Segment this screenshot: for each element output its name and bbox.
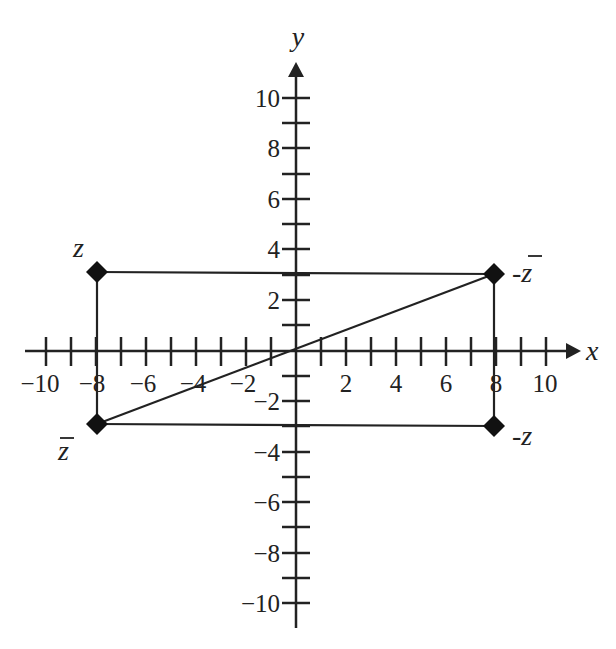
y-tick-label: 8 bbox=[268, 135, 281, 162]
point-zbar-text: z bbox=[57, 435, 69, 466]
x-axis-label: x bbox=[585, 335, 599, 366]
y-tick-label: −6 bbox=[253, 489, 280, 516]
point-z-label: z bbox=[72, 232, 84, 263]
y-tick-label: 2 bbox=[268, 287, 281, 314]
y-axis-arrow-icon bbox=[288, 62, 304, 77]
x-tick-label: −6 bbox=[130, 370, 157, 397]
x-tick-label: −2 bbox=[230, 370, 257, 397]
point-neg-zbar-label: -z bbox=[512, 256, 542, 288]
point-z-marker-icon bbox=[86, 261, 108, 283]
x-tick-label: 6 bbox=[440, 370, 453, 397]
y-tick-label: 4 bbox=[268, 236, 281, 263]
point-neg-z-marker-icon bbox=[483, 415, 505, 437]
y-tick-label: −8 bbox=[253, 540, 280, 567]
y-tick-label: 10 bbox=[255, 85, 280, 112]
point-neg-zbar-text: -z bbox=[512, 257, 532, 288]
x-axis-arrow-icon bbox=[566, 343, 581, 359]
x-tick-labels: −10 −8 −6 −4 −2 2 4 6 8 10 bbox=[20, 370, 557, 397]
y-tick-label: −2 bbox=[253, 388, 280, 415]
y-tick-label: −10 bbox=[241, 590, 280, 617]
y-axis-label: y bbox=[289, 21, 305, 52]
complex-plane-diagram: −10 −8 −6 −4 −2 2 4 6 8 10 10 8 6 4 2 −2… bbox=[0, 0, 616, 649]
x-tick-label: 2 bbox=[340, 370, 353, 397]
y-tick-label: 6 bbox=[268, 186, 281, 213]
x-tick-label: −10 bbox=[20, 370, 59, 397]
point-zbar-label: z bbox=[57, 435, 74, 466]
x-tick-label: −8 bbox=[79, 370, 106, 397]
point-zbar-marker-icon bbox=[86, 413, 108, 435]
point-neg-z-label: -z bbox=[512, 420, 532, 451]
x-tick-label: 10 bbox=[533, 370, 558, 397]
x-tick-label: 4 bbox=[390, 370, 403, 397]
x-tick-label: 8 bbox=[490, 370, 503, 397]
point-neg-zbar-marker-icon bbox=[483, 263, 505, 285]
y-tick-label: −4 bbox=[253, 439, 280, 466]
